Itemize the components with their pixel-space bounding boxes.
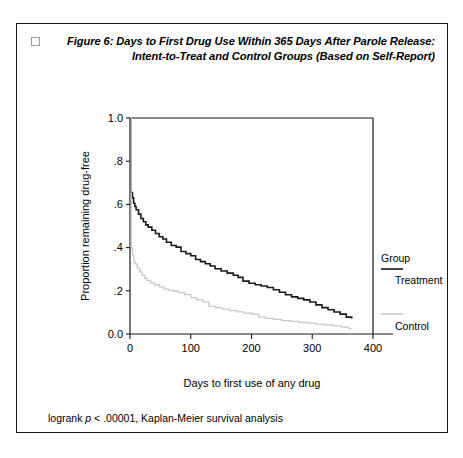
survival-chart-svg: 0.0.2.4.6.81.00100200300400Proportion re… xyxy=(17,72,447,372)
x-axis-tick-label: 400 xyxy=(364,342,382,354)
y-axis-tick-label: 1.0 xyxy=(108,112,123,124)
y-axis-title: Proportion remaining drug-free xyxy=(79,151,91,301)
x-axis-tick-label: 0 xyxy=(127,342,133,354)
y-axis-tick-label: 0.0 xyxy=(108,328,123,340)
y-axis-tick-label: .8 xyxy=(114,155,123,167)
footnote-suffix: < .00001, Kaplan-Meier survival analysis xyxy=(91,412,283,424)
page-title: Figure 6: Days to First Drug Use Within … xyxy=(50,34,435,63)
chart-footnote: logrank p < .00001, Kaplan-Meier surviva… xyxy=(48,412,283,424)
chart-plot-area: 0.0.2.4.6.81.00100200300400Proportion re… xyxy=(17,72,447,372)
series-line-control xyxy=(130,118,352,329)
x-axis-tick-label: 200 xyxy=(242,342,260,354)
footnote-prefix: logrank xyxy=(48,412,85,424)
y-axis-tick-label: .4 xyxy=(114,241,123,253)
legend-label-treatment: Treatment xyxy=(395,274,443,286)
x-axis-tick-label: 300 xyxy=(303,342,321,354)
figure-title-row: Figure 6: Days to First Drug Use Within … xyxy=(31,34,435,63)
chart-legend: GroupTreatmentControl xyxy=(381,252,443,332)
plot-frame xyxy=(130,118,373,334)
series-line-treatment xyxy=(130,118,352,318)
legend-label-control: Control xyxy=(395,320,429,332)
y-axis-tick-label: .2 xyxy=(114,285,123,297)
x-axis-title: Days to first use of any drug xyxy=(130,377,374,389)
legend-heading: Group xyxy=(381,252,410,264)
figure-title-line-2: Intent-to-Treat and Control Groups (Base… xyxy=(50,49,435,64)
y-axis-tick-label: .6 xyxy=(114,198,123,210)
x-axis-tick-label: 100 xyxy=(182,342,200,354)
chart-series-group xyxy=(130,118,352,329)
figure-container: Figure 6: Days to First Drug Use Within … xyxy=(16,23,448,433)
figure-title-line-1: Figure 6: Days to First Drug Use Within … xyxy=(50,34,435,49)
figure-marker-icon xyxy=(31,37,40,46)
